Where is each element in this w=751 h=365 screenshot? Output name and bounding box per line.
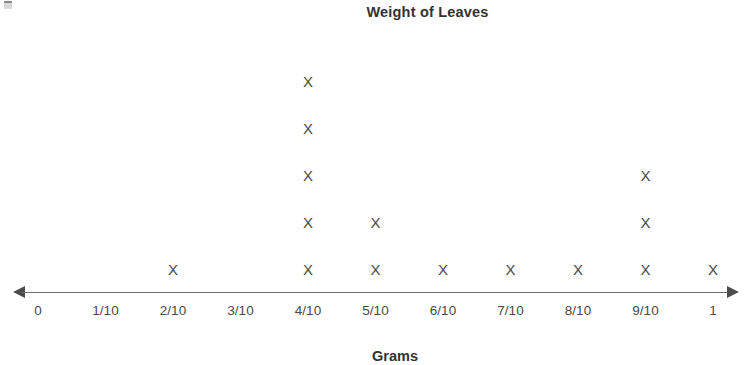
- axis-tick-labels: 01/102/103/104/105/106/107/108/109/101: [0, 303, 751, 329]
- x-marker: X: [491, 246, 531, 293]
- axis-tick-label: 4/10: [278, 303, 338, 318]
- marker-stack: X: [153, 246, 193, 293]
- marker-stack: XXXXX: [288, 58, 328, 293]
- axis-arrow-right-icon: [727, 286, 739, 298]
- axis-tick-label: 3/10: [211, 303, 271, 318]
- number-line-axis: [22, 292, 730, 293]
- x-marker: X: [423, 246, 463, 293]
- x-marker: X: [288, 152, 328, 199]
- x-marker: X: [356, 199, 396, 246]
- axis-tick-label: 9/10: [616, 303, 676, 318]
- x-marker: X: [626, 152, 666, 199]
- x-marker: X: [356, 246, 396, 293]
- marker-stacks-layer: XXXXXXXXXXXXXXX: [0, 0, 751, 293]
- axis-tick-label: 5/10: [346, 303, 406, 318]
- x-marker: X: [288, 105, 328, 152]
- axis-tick-label: 7/10: [481, 303, 541, 318]
- axis-tick-label: 1/10: [76, 303, 136, 318]
- marker-stack: XXX: [626, 152, 666, 293]
- line-plot-figure: Weight of Leaves XXXXXXXXXXXXXXX 01/102/…: [0, 0, 751, 365]
- x-marker: X: [626, 199, 666, 246]
- x-marker: X: [153, 246, 193, 293]
- marker-stack: X: [558, 246, 598, 293]
- axis-tick-label: 8/10: [548, 303, 608, 318]
- marker-stack: XX: [356, 199, 396, 293]
- axis-tick-label: 1: [683, 303, 743, 318]
- x-marker: X: [288, 199, 328, 246]
- axis-tick-label: 0: [8, 303, 68, 318]
- x-marker: X: [558, 246, 598, 293]
- x-marker: X: [288, 58, 328, 105]
- axis-tick-label: 2/10: [143, 303, 203, 318]
- x-marker: X: [288, 246, 328, 293]
- axis-tick-label: 6/10: [413, 303, 473, 318]
- x-marker: X: [626, 246, 666, 293]
- marker-stack: X: [491, 246, 531, 293]
- x-axis-caption: Grams: [0, 348, 751, 364]
- marker-stack: X: [423, 246, 463, 293]
